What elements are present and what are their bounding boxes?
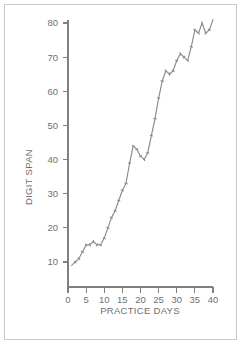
data-point-marker <box>117 200 120 201</box>
data-point-marker <box>146 152 149 153</box>
x-tick-label: 5 <box>83 294 88 305</box>
y-tick-label: 60 <box>47 86 58 97</box>
data-point-marker <box>124 183 127 184</box>
x-tick-label: 40 <box>208 294 219 305</box>
data-point-marker <box>150 135 153 136</box>
data-point-marker <box>175 60 178 61</box>
data-point-marker <box>193 29 196 31</box>
data-point-marker <box>114 210 117 211</box>
y-axis-ticks <box>63 23 69 262</box>
y-axis-tick-labels: 1020304050607080 <box>47 17 58 267</box>
data-point-marker <box>103 237 106 238</box>
y-tick-label: 10 <box>47 256 58 267</box>
x-tick-label: 10 <box>99 294 110 305</box>
data-point-marker <box>186 60 189 62</box>
x-tick-label: 35 <box>190 294 201 305</box>
data-point-marker <box>81 251 84 253</box>
x-tick-label: 20 <box>135 294 146 305</box>
data-series-group <box>72 20 213 266</box>
y-tick-label: 20 <box>47 222 58 233</box>
x-tick-label: 30 <box>171 294 182 305</box>
digit-span-line <box>72 20 213 266</box>
data-point-marker <box>121 190 124 191</box>
data-point-marker <box>110 217 113 218</box>
data-point-marker <box>161 81 164 82</box>
data-point-marker <box>132 145 135 147</box>
x-axis-tick-labels: 0510152025303540 <box>65 294 218 305</box>
x-axis-title: PRACTICE DAYS <box>100 305 180 316</box>
y-tick-label: 40 <box>47 154 58 165</box>
y-tick-label: 70 <box>47 52 58 63</box>
data-point-marker <box>153 118 156 119</box>
y-tick-label: 50 <box>47 120 58 131</box>
line-chart: 1020304050607080 0510152025303540 PRACTI… <box>0 0 241 344</box>
x-tick-label: 15 <box>117 294 128 305</box>
y-tick-label: 30 <box>47 188 58 199</box>
x-axis: 0510152025303540 <box>65 287 218 305</box>
data-point-marker <box>128 163 131 164</box>
y-axis: 1020304050607080 <box>47 17 68 287</box>
digit-span-markers <box>74 21 211 263</box>
data-point-marker <box>106 227 109 228</box>
x-axis-ticks <box>68 287 213 293</box>
data-point-marker <box>190 47 193 48</box>
data-point-marker <box>157 98 160 99</box>
y-tick-label: 80 <box>47 17 58 28</box>
x-tick-label: 0 <box>65 294 70 305</box>
figure-root: 1020304050607080 0510152025303540 PRACTI… <box>0 0 241 344</box>
y-axis-title: DIGIT SPAN <box>23 149 34 205</box>
x-tick-label: 25 <box>153 294 164 305</box>
